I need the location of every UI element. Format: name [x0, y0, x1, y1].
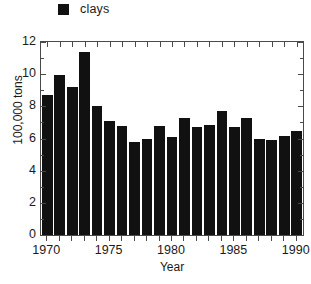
- y-axis-minor-tick: [300, 58, 303, 59]
- x-axis-tick: [59, 236, 60, 241]
- clays-production-bar-chart: clays 024681012 100,000 tons 19701975198…: [0, 0, 311, 284]
- y-axis-tick: [298, 42, 303, 43]
- y-axis-tick: [41, 74, 46, 75]
- caption-strip: [0, 277, 311, 284]
- x-axis-tick: [110, 42, 111, 47]
- y-axis-minor-tick: [41, 155, 44, 156]
- y-axis-tick: [298, 74, 303, 75]
- x-axis-tick: [171, 236, 172, 241]
- x-axis-tick: [72, 42, 73, 47]
- x-axis-tick: [97, 42, 98, 47]
- bar: [142, 139, 153, 236]
- x-axis-tick: [222, 42, 223, 47]
- y-axis-minor-tick: [41, 187, 44, 188]
- x-axis-tick: [60, 42, 61, 47]
- bar: [179, 118, 190, 235]
- plot-area: [41, 42, 303, 235]
- y-axis-tick-label: 0: [29, 229, 36, 239]
- y-axis-tick: [298, 203, 303, 204]
- x-axis-tick: [85, 42, 86, 47]
- y-axis-tick-label: 8: [29, 100, 36, 110]
- x-axis-tick: [259, 42, 260, 47]
- x-axis-tick: [160, 42, 161, 47]
- bar: [54, 75, 65, 235]
- x-axis-tick-label: 1970: [32, 243, 60, 257]
- bar: [241, 118, 252, 235]
- x-axis-tick: [197, 42, 198, 47]
- x-axis-tick: [47, 42, 48, 47]
- x-axis-tick: [246, 236, 247, 241]
- y-axis-tick-label: 6: [29, 133, 36, 143]
- y-axis-tick-label: 4: [29, 165, 36, 175]
- x-axis-tick: [121, 236, 122, 241]
- plot-frame: [40, 41, 304, 236]
- y-axis-minor-tick: [300, 219, 303, 220]
- y-axis-tick: [298, 106, 303, 107]
- x-axis-tick: [147, 42, 148, 47]
- bar: [42, 95, 53, 235]
- legend-swatch-clays-icon: [58, 4, 69, 15]
- x-axis-tick: [183, 236, 184, 241]
- x-axis-tick: [122, 42, 123, 47]
- x-axis-tick: [258, 236, 259, 241]
- x-axis-tick: [196, 236, 197, 241]
- y-axis-tick: [41, 139, 46, 140]
- bar: [117, 126, 128, 235]
- x-axis-tick: [283, 236, 284, 241]
- x-axis-tick: [297, 42, 298, 47]
- y-axis-tick: [41, 203, 46, 204]
- x-axis-tick: [271, 236, 272, 241]
- y-axis-tick: [41, 171, 46, 172]
- y-axis-minor-tick: [41, 219, 44, 220]
- y-axis-minor-tick: [300, 187, 303, 188]
- x-axis-tick: [146, 236, 147, 241]
- bar: [67, 87, 78, 235]
- bar: [104, 121, 115, 235]
- x-axis-tick: [233, 236, 234, 241]
- bar: [204, 125, 215, 235]
- bar: [217, 111, 228, 235]
- bar: [92, 106, 103, 235]
- x-axis-tick: [71, 236, 72, 241]
- x-axis-tick-label: 1975: [95, 243, 123, 257]
- bar: [279, 136, 290, 235]
- y-axis-minor-tick: [300, 155, 303, 156]
- y-axis-title: 100,000 tons: [12, 50, 24, 170]
- y-axis-tick-label: 12: [22, 36, 36, 46]
- bar: [129, 142, 140, 235]
- x-axis-tick: [184, 42, 185, 47]
- bar: [154, 126, 165, 235]
- y-axis-minor-tick: [41, 58, 44, 59]
- bar: [254, 139, 265, 235]
- legend-label-clays: clays: [80, 3, 109, 15]
- bar: [229, 127, 240, 235]
- y-axis-minor-tick: [300, 90, 303, 91]
- x-axis-tick: [109, 236, 110, 241]
- x-axis-tick: [284, 42, 285, 47]
- x-axis-tick-label: 1990: [282, 243, 310, 257]
- y-axis-minor-tick: [300, 122, 303, 123]
- x-axis-tick: [96, 236, 97, 241]
- x-axis-tick: [172, 42, 173, 47]
- y-axis-minor-tick: [41, 122, 44, 123]
- bar: [79, 52, 90, 235]
- y-axis-minor-tick: [41, 90, 44, 91]
- x-axis-tick: [46, 236, 47, 241]
- x-axis-title: Year: [40, 261, 304, 273]
- x-axis-tick: [135, 42, 136, 47]
- chart-legend: clays: [58, 3, 109, 15]
- x-axis-tick: [296, 236, 297, 241]
- y-axis-tick: [298, 171, 303, 172]
- x-axis-tick-label: 1980: [157, 243, 185, 257]
- y-axis-tick-label: 2: [29, 197, 36, 207]
- y-axis-tick: [41, 106, 46, 107]
- x-axis-tick: [208, 236, 209, 241]
- x-axis-tick: [272, 42, 273, 47]
- x-axis-tick: [134, 236, 135, 241]
- x-axis-tick: [159, 236, 160, 241]
- y-axis-tick: [41, 42, 46, 43]
- x-axis-tick-labels: 19701975198019851990: [40, 243, 304, 259]
- bar: [266, 140, 277, 235]
- x-axis-tick: [234, 42, 235, 47]
- bar: [167, 137, 178, 235]
